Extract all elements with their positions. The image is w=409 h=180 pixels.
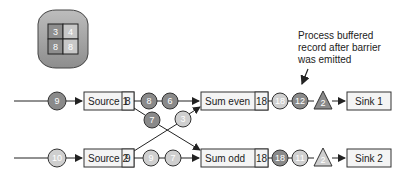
- source-label: Source 2: [88, 153, 128, 164]
- state-cell: 4: [68, 27, 73, 37]
- record-value: 8: [146, 96, 151, 106]
- operator-sum-odd: Sum odd 18: [201, 149, 268, 167]
- record-value: 9: [148, 153, 153, 163]
- annotation-line: record after barrier: [298, 42, 381, 53]
- annotation: Process buffered record after barrier wa…: [297, 30, 381, 84]
- barrier-value: 2: [320, 98, 325, 108]
- record-value: 18: [275, 96, 285, 106]
- operator-sum-even: Sum even 18: [201, 92, 268, 110]
- source-offset: 8: [125, 96, 131, 107]
- record-value: 3: [180, 114, 185, 124]
- record-value: 7: [149, 115, 154, 125]
- operator-label: Sum even: [205, 96, 250, 107]
- sink-label: Sink 1: [355, 96, 383, 107]
- barrier-value: 2: [320, 155, 325, 165]
- record-value: 11: [295, 153, 304, 163]
- state-cell: 3: [53, 27, 58, 37]
- operator-state: 18: [256, 153, 268, 164]
- source-1: Source 1 8: [84, 92, 134, 110]
- state-cell: 8: [68, 42, 73, 52]
- sink-2: Sink 2: [347, 149, 391, 167]
- source-2: Source 2 9: [84, 149, 134, 167]
- record-value: 6: [167, 96, 172, 106]
- annotation-line: was emitted: [297, 54, 351, 65]
- source-label: Source 1: [88, 96, 128, 107]
- record-value: 10: [52, 153, 62, 163]
- record-value: 9: [54, 96, 59, 106]
- operator-label: Sum odd: [205, 153, 245, 164]
- operator-state: 18: [256, 96, 268, 107]
- sink-1: Sink 1: [347, 92, 391, 110]
- sink-label: Sink 2: [355, 153, 383, 164]
- record-value: 7: [170, 153, 175, 163]
- state-cell: 8: [53, 42, 58, 52]
- record-value: 18: [275, 153, 285, 163]
- annotation-line: Process buffered: [298, 30, 373, 41]
- state-store: 3 4 8 8: [38, 10, 88, 68]
- checkpoint-diagram: 3 4 8 8 Process buffered record after ba…: [0, 0, 409, 180]
- record-value: 12: [295, 96, 305, 106]
- source-offset: 9: [125, 153, 131, 164]
